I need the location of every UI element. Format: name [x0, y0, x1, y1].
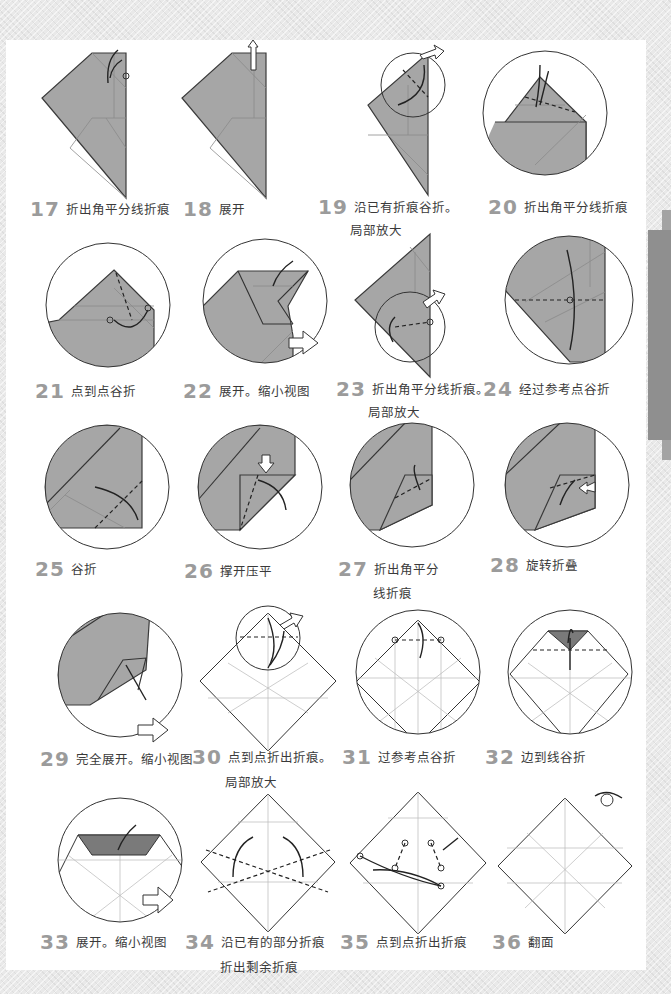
step-sublabel-30: 局部放大	[225, 772, 277, 791]
step-label-19: 19沿已有折痕谷折。	[318, 198, 458, 217]
step-label-33: 33展开。缩小视图	[40, 933, 167, 952]
step-label-32: 32边到线谷折	[485, 748, 586, 767]
step-label-28: 28旋转折叠	[490, 556, 578, 575]
step-label-30: 30点到点折出折痕。	[192, 748, 332, 767]
step-label-27: 27折出角平分	[338, 560, 439, 579]
step-label-29: 29完全展开。缩小视图	[40, 750, 193, 769]
step-label-20: 20折出角平分线折痕	[488, 198, 628, 217]
step-label-25: 25谷折	[35, 560, 97, 579]
side-chapter-tab	[648, 230, 671, 440]
step-label-17: 17折出角平分线折痕	[30, 200, 170, 219]
step-label-26: 26撑开压平	[184, 562, 272, 581]
step-label-22: 22展开。缩小视图	[183, 382, 310, 401]
step-label-18: 18展开	[183, 200, 245, 219]
step-label-21: 21点到点谷折	[35, 382, 136, 401]
step-sublabel-34: 折出剩余折痕	[220, 957, 298, 976]
step-label-31: 31过参考点谷折	[342, 748, 456, 767]
step-label-35: 35点到点折出折痕	[340, 933, 467, 952]
step-label-34: 34沿已有的部分折痕	[185, 933, 325, 952]
step-label-36: 36翻面	[492, 933, 554, 952]
step-sublabel-23: 局部放大	[368, 402, 420, 421]
step-label-23: 23折出角平分线折痕。	[336, 380, 489, 399]
step-label-24: 24经过参考点谷折	[483, 380, 610, 399]
step-sublabel-27: 线折痕	[373, 583, 412, 602]
